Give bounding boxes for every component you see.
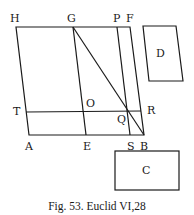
label-h: H (10, 12, 20, 25)
label-a: A (24, 140, 34, 153)
label-g: G (67, 12, 76, 25)
label-s: S (127, 140, 135, 153)
figure-caption: Fig. 53. Euclid VI,28 (0, 200, 194, 212)
euclid-diagram: H G P F T O R Q A E S B D C (0, 0, 194, 215)
label-d: D (156, 47, 165, 60)
label-q: Q (117, 113, 126, 126)
label-f: F (126, 12, 134, 25)
label-t: T (13, 105, 21, 118)
label-e: E (83, 140, 91, 153)
label-p: P (113, 12, 121, 25)
line-tr (26, 111, 141, 112)
label-o: O (86, 97, 95, 110)
label-c: C (142, 164, 150, 177)
label-b: B (140, 140, 148, 153)
label-r: R (147, 104, 156, 117)
